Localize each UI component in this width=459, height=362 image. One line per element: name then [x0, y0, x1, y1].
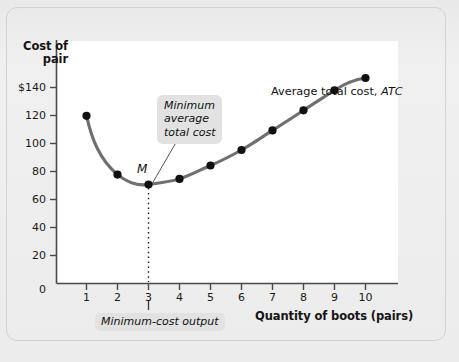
data-point: [237, 146, 245, 154]
chart-canvas: [0, 0, 459, 362]
series-label-atc: Average total cost, ATC: [271, 85, 403, 98]
y-tick-label-20: 20: [0, 249, 46, 262]
y-tick-label-100: 100: [0, 137, 46, 150]
data-point: [206, 161, 214, 169]
callout-minimum-cost-output: Minimum-cost output: [95, 313, 225, 331]
data-point: [361, 74, 369, 82]
point-m-label: M: [137, 162, 147, 176]
y-tick-label-40: 40: [0, 221, 46, 234]
y-tick-label-80: 80: [0, 165, 46, 178]
y-tick-label-0: 0: [0, 283, 46, 296]
x-axis-title: Quantity of boots (pairs): [255, 310, 413, 323]
x-tick-label-5: 5: [196, 291, 225, 304]
y-tick-label-60: 60: [0, 193, 46, 206]
series-label-symbol: ATC: [381, 85, 403, 98]
data-point: [268, 126, 276, 134]
x-tick-label-7: 7: [258, 291, 287, 304]
y-tick-label-140: $140: [0, 81, 46, 94]
callout-line-1: Minimum: [164, 99, 215, 112]
x-tick-label-8: 8: [289, 291, 318, 304]
figure-container: Cost of pair $140 120 100 80 60 40 20 0 …: [0, 0, 459, 362]
series-label-prefix: Average total cost,: [271, 85, 381, 98]
data-point: [113, 171, 121, 179]
callout-line-3: total cost: [164, 126, 215, 139]
x-tick-label-1: 1: [72, 291, 101, 304]
x-tick-label-4: 4: [165, 291, 194, 304]
callout-line-2: average: [164, 112, 215, 125]
y-axis-title: Cost of pair: [10, 40, 68, 66]
y-axis-title-line2: pair: [10, 53, 68, 66]
callout-minimum-average-total-cost: Minimum average total cost: [157, 95, 222, 144]
data-point: [299, 106, 307, 114]
data-point: [82, 112, 90, 120]
x-tick-label-2: 2: [103, 291, 132, 304]
y-tick-label-120: 120: [0, 109, 46, 122]
data-point: [175, 175, 183, 183]
data-point: [144, 180, 152, 188]
x-tick-label-9: 9: [320, 291, 349, 304]
x-tick-label-3: 3: [134, 291, 163, 304]
x-tick-label-6: 6: [227, 291, 256, 304]
plot-area-background: [57, 41, 398, 283]
x-tick-label-10: 10: [351, 291, 380, 304]
